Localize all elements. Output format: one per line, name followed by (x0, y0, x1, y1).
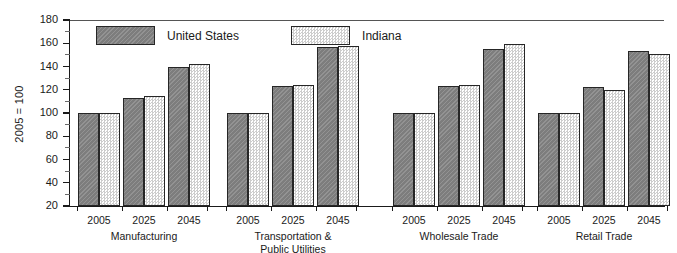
bar-united-states (393, 113, 414, 206)
y-axis-tick-label: 160 (32, 35, 58, 50)
legend-swatch-united-states (96, 26, 155, 45)
bar-united-states (168, 67, 189, 207)
y-axis-tick-label: 140 (32, 59, 58, 74)
y-axis-title: 2005 = 100 (13, 59, 25, 169)
bar-indiana (649, 54, 670, 206)
x-axis-tick (522, 206, 523, 211)
tick-mark (65, 124, 70, 125)
y-axis-tick-label: 180 (32, 12, 58, 27)
x-axis-tick (167, 206, 168, 211)
bar-united-states (227, 113, 248, 206)
x-axis-tick (482, 206, 483, 211)
x-axis-tick (316, 206, 317, 211)
x-axis-year-label: 2045 (166, 214, 212, 226)
x-axis-tick (667, 206, 668, 211)
x-axis-year-label: 2005 (76, 214, 122, 226)
legend-item-indiana: Indiana (291, 26, 401, 45)
tick-mark (63, 182, 70, 183)
bar-indiana (248, 113, 269, 206)
tick-mark (65, 31, 70, 32)
bar-united-states (628, 51, 649, 206)
x-axis-year-label: 2025 (436, 214, 482, 226)
y-axis-tick-label: 80 (32, 128, 58, 143)
tick-mark (65, 78, 70, 79)
legend-swatch-indiana (291, 26, 350, 45)
tick-mark (63, 66, 70, 67)
bar-united-states (78, 113, 99, 206)
x-axis-tick (627, 206, 628, 211)
x-axis-tick (582, 206, 583, 211)
x-axis-tick (356, 206, 357, 211)
bar-united-states (538, 113, 559, 206)
x-axis-year-label: 2025 (121, 214, 167, 226)
legend-label-indiana: Indiana (362, 29, 401, 43)
y-axis-tick-label: 40 (32, 175, 58, 190)
tick-mark (63, 136, 70, 137)
x-axis-year-label: 2045 (315, 214, 361, 226)
bar-united-states (483, 49, 504, 206)
legend-label-united-states: United States (167, 29, 239, 43)
y-axis-tick-label: 120 (32, 82, 58, 97)
tick-mark (65, 147, 70, 148)
x-axis-tick (392, 206, 393, 211)
x-axis-year-label: 2005 (391, 214, 437, 226)
bar-chart: 2005 = 100 20406080100120140160180 20052… (0, 0, 677, 253)
x-axis-year-label: 2005 (225, 214, 271, 226)
x-axis-labels: 200520252045Manufacturing200520252045Tra… (0, 206, 677, 253)
tick-mark (65, 54, 70, 55)
bar-indiana (604, 90, 625, 206)
x-axis-tick (271, 206, 272, 211)
tick-mark (63, 112, 70, 113)
x-axis-year-label: 2045 (481, 214, 527, 226)
tick-mark (65, 101, 70, 102)
bar-united-states (272, 86, 293, 206)
x-axis-category-label: Retail Trade (504, 230, 677, 243)
bar-indiana (459, 85, 480, 206)
x-axis-tick (122, 206, 123, 211)
x-axis-tick (226, 206, 227, 211)
bar-united-states (583, 87, 604, 206)
bar-indiana (189, 64, 210, 206)
bar-indiana (293, 85, 314, 206)
bar-united-states (123, 98, 144, 206)
tick-mark (65, 194, 70, 195)
y-axis-tick-label: 100 (32, 105, 58, 120)
x-axis-year-label: 2025 (270, 214, 316, 226)
bar-indiana (414, 113, 435, 206)
chart-legend: United States Indiana (96, 26, 401, 45)
bar-united-states (317, 47, 338, 206)
bar-indiana (338, 46, 359, 206)
x-axis-year-label: 2045 (626, 214, 672, 226)
x-axis-tick (537, 206, 538, 211)
legend-item-united-states: United States (96, 26, 239, 45)
tick-mark (63, 159, 70, 160)
tick-mark (65, 171, 70, 172)
bar-indiana (559, 113, 580, 206)
x-axis-tick (207, 206, 208, 211)
x-axis-tick (77, 206, 78, 211)
bar-indiana (99, 113, 120, 206)
tick-mark (63, 19, 70, 20)
x-axis-tick (437, 206, 438, 211)
x-axis-year-label: 2025 (581, 214, 627, 226)
bar-united-states (438, 86, 459, 206)
bar-indiana (144, 96, 165, 206)
tick-mark (63, 89, 70, 90)
x-axis-year-label: 2005 (536, 214, 582, 226)
y-axis-tick-label: 60 (32, 152, 58, 167)
tick-mark (63, 43, 70, 44)
bar-indiana (504, 44, 525, 206)
